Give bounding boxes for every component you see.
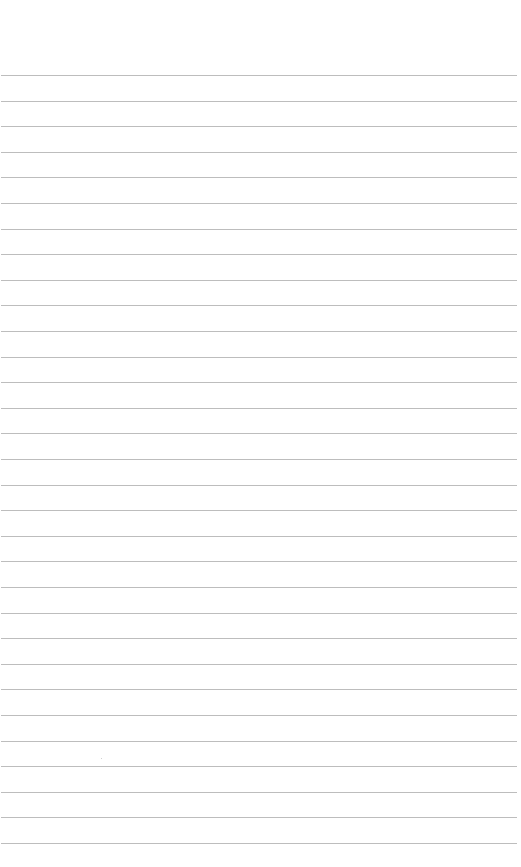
lined-paper-sheet: [0, 0, 521, 867]
ruled-line: [1, 766, 517, 767]
ruled-line: [1, 741, 517, 742]
ruled-line: [1, 536, 517, 537]
ruled-line: [1, 817, 517, 818]
ruled-line: [1, 357, 517, 358]
ruled-line: [1, 280, 517, 281]
ruled-line: [1, 177, 517, 178]
ruled-line: [1, 485, 517, 486]
ruled-line: [1, 331, 517, 332]
ruled-line: [1, 126, 517, 127]
ruled-line: [1, 305, 517, 306]
ruled-line: [1, 254, 517, 255]
ruled-line: [1, 408, 517, 409]
paper-speck: [101, 758, 102, 759]
ruled-line: [1, 510, 517, 511]
ruled-line: [1, 638, 517, 639]
ruled-line: [1, 664, 517, 665]
ruled-line: [1, 75, 517, 76]
ruled-line: [1, 715, 517, 716]
ruled-line: [1, 229, 517, 230]
ruled-line: [1, 152, 517, 153]
ruled-line: [1, 561, 517, 562]
ruled-line: [1, 459, 517, 460]
ruled-line: [1, 613, 517, 614]
ruled-line: [1, 843, 517, 844]
ruled-line: [1, 101, 517, 102]
ruled-line: [1, 203, 517, 204]
ruled-line: [1, 792, 517, 793]
ruled-line: [1, 689, 517, 690]
ruled-line: [1, 382, 517, 383]
ruled-line: [1, 433, 517, 434]
ruled-line: [1, 587, 517, 588]
